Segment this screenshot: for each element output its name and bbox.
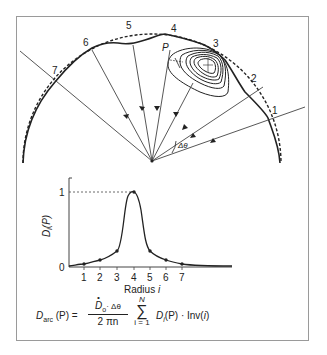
radius-label-4: 4 — [171, 23, 177, 34]
reference-arc — [23, 34, 281, 163]
point-p-label: P — [162, 42, 169, 53]
radius-label-7: 7 — [52, 65, 58, 76]
arc-diagram: 1 2 3 4 5 6 7 P Δθ 1 0 1 2 3 4 5 6 — [0, 0, 327, 355]
arrowheads — [123, 106, 216, 143]
radius-label-2: 2 — [251, 73, 257, 84]
radius-label-5: 5 — [126, 20, 132, 31]
x-tick-7: 7 — [179, 272, 185, 283]
term-rest: (P) · Inv( — [165, 310, 204, 321]
x-tick-3: 3 — [114, 272, 120, 283]
x-tick-1: 1 — [81, 272, 87, 283]
radius-label-3: 3 — [213, 38, 219, 49]
y-tick-0: 0 — [59, 262, 65, 273]
formula-fraction: •Do· Δθ 2 πn — [88, 300, 128, 327]
formula-term: Di(P) · Inv(i) — [156, 310, 209, 323]
x-tick-5: 5 — [147, 272, 153, 283]
dose-chart: 1 0 1 2 3 4 5 6 7 Radius i Di(P) — [41, 178, 232, 295]
radius-rays — [20, 45, 305, 161]
x-tick-2: 2 — [97, 272, 103, 283]
point-p-tick — [175, 58, 180, 68]
x-axis-label: Radius i — [124, 284, 161, 295]
x-axis-label-text: Radius — [124, 284, 158, 295]
y-tick-1: 1 — [59, 187, 65, 198]
data-points — [82, 190, 183, 265]
formula-sum: N ∑ i = 1 — [132, 295, 152, 327]
center-point — [150, 159, 153, 162]
dose-curve — [69, 192, 232, 266]
term-close: ) — [206, 310, 209, 321]
y-axis-label: Di(P) — [41, 215, 53, 237]
formula-num-rest: · Δθ — [106, 302, 121, 311]
x-tick-4: 4 — [131, 272, 137, 283]
delta-theta-label: Δθ — [177, 141, 188, 150]
measured-profile — [23, 34, 280, 163]
radius-label-6: 6 — [83, 37, 89, 48]
dose-contours — [168, 48, 229, 96]
sum-symbol: ∑ — [132, 304, 152, 318]
sum-lower: i = 1 — [132, 318, 152, 327]
formula-lhs-arg: (P) = — [56, 310, 78, 321]
formula-lhs-sub: arc — [43, 316, 53, 323]
formula-denominator: 2 πn — [88, 315, 128, 327]
radius-label-1: 1 — [272, 105, 278, 116]
x-tick-6: 6 — [163, 272, 169, 283]
